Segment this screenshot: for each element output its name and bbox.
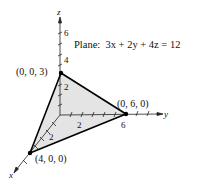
point-x-intercept xyxy=(28,151,32,155)
z-tick-6: 6 xyxy=(64,28,69,38)
y-tick-6: 6 xyxy=(121,120,126,130)
y-axis-label: y xyxy=(163,109,168,119)
plane-equation-label: Plane: 3x + 2y + 4z = 12 xyxy=(74,39,180,50)
y-intercept-label: (0, 6, 0) xyxy=(117,98,149,110)
x-axis-label: x xyxy=(8,170,13,180)
plane-diagram: z y x 6 4 2 2 6 2 Plane: 3x + 2y + 4z = … xyxy=(0,0,199,184)
point-y-intercept xyxy=(124,112,128,116)
z-axis-label: z xyxy=(56,7,61,17)
diagram-canvas: z y x 6 4 2 2 6 2 Plane: 3x + 2y + 4z = … xyxy=(0,0,199,184)
z-tick-2: 2 xyxy=(64,82,69,92)
x-tick-2: 2 xyxy=(49,132,54,142)
y-tick-2: 2 xyxy=(77,120,82,130)
plane-triangle xyxy=(30,73,126,153)
x-intercept-label: (4, 0, 0) xyxy=(35,153,67,165)
point-z-intercept xyxy=(59,71,63,75)
z-tick-4: 4 xyxy=(64,55,69,65)
z-intercept-label: (0, 0, 3) xyxy=(16,66,48,78)
